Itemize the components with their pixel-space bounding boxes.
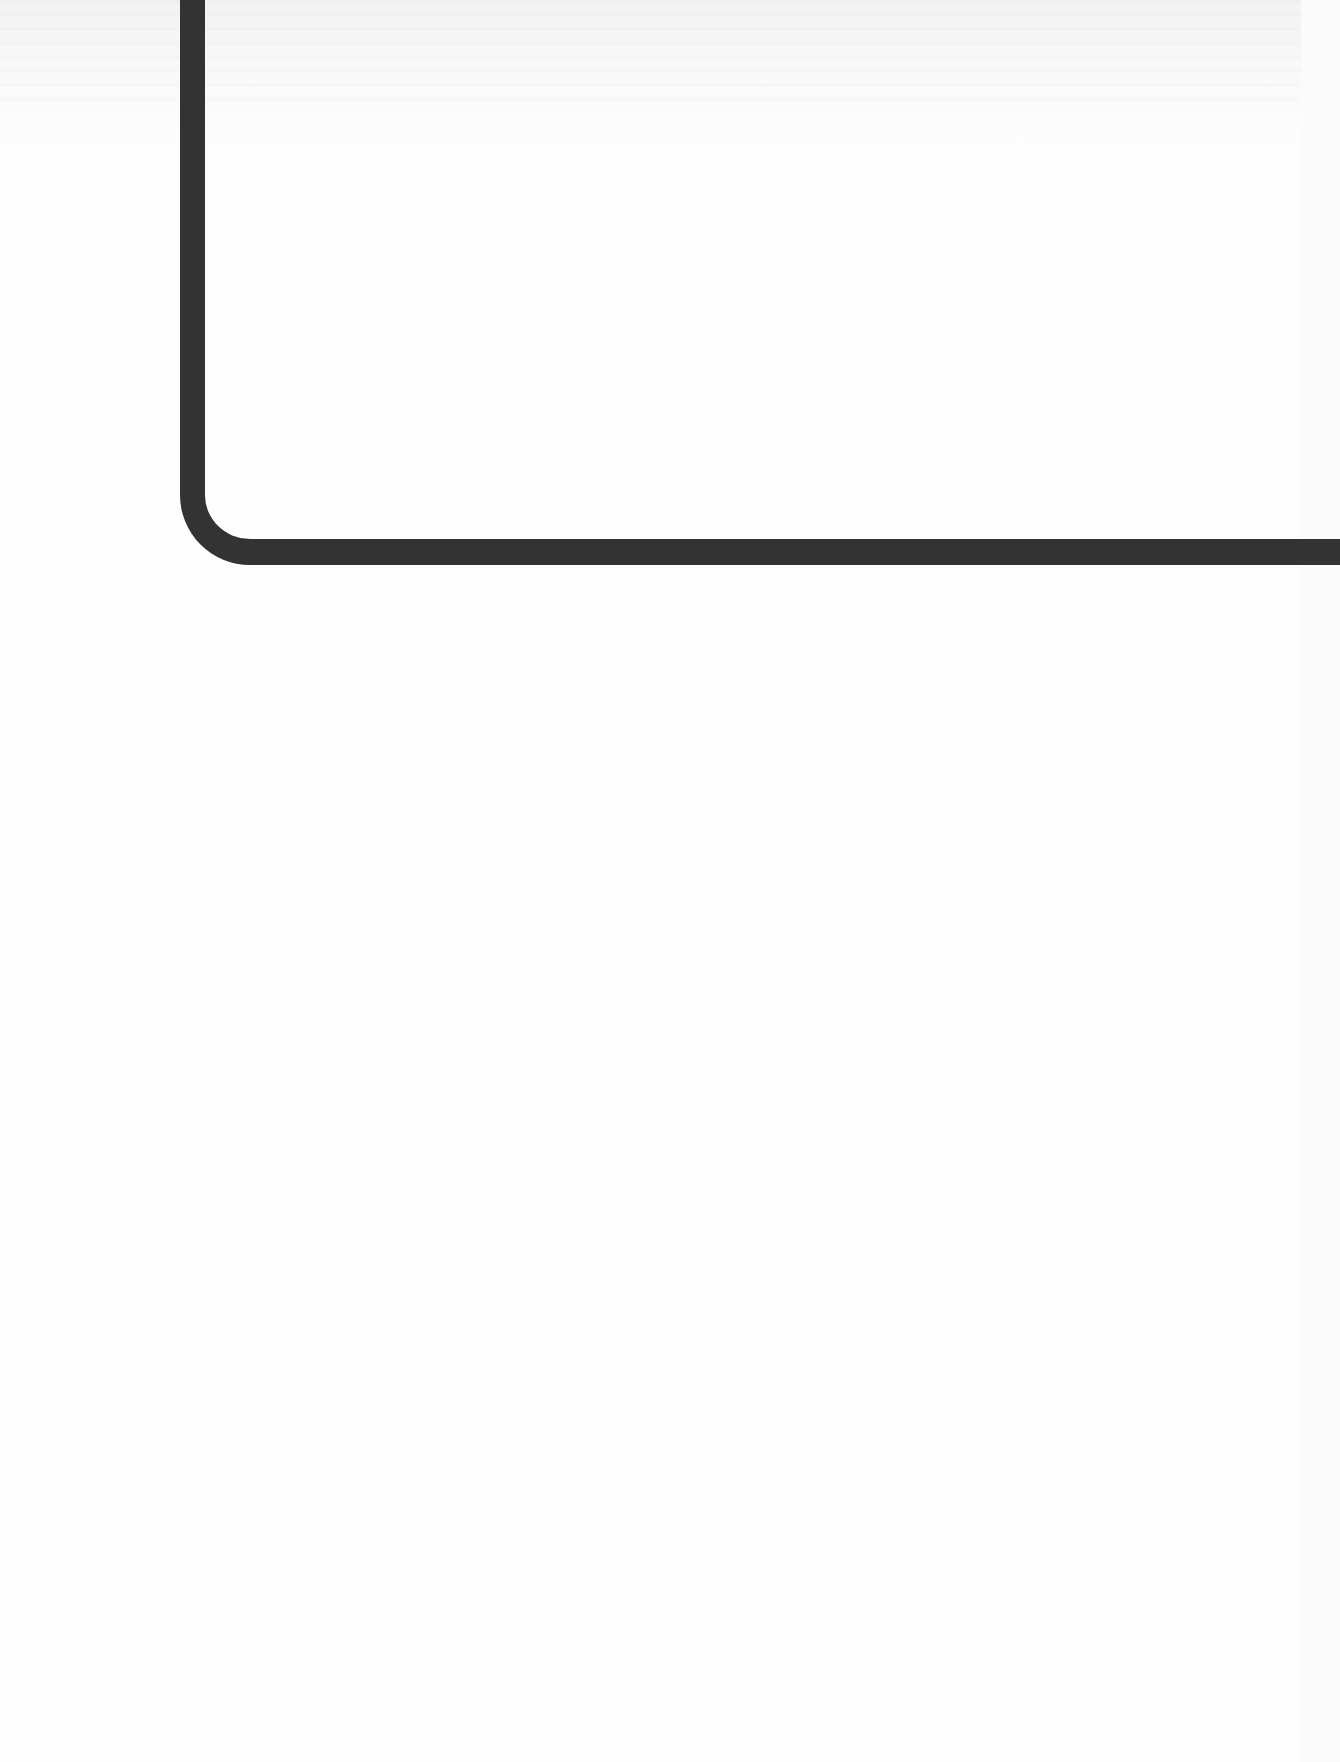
l-shaped-frame-line [180, 0, 1340, 565]
